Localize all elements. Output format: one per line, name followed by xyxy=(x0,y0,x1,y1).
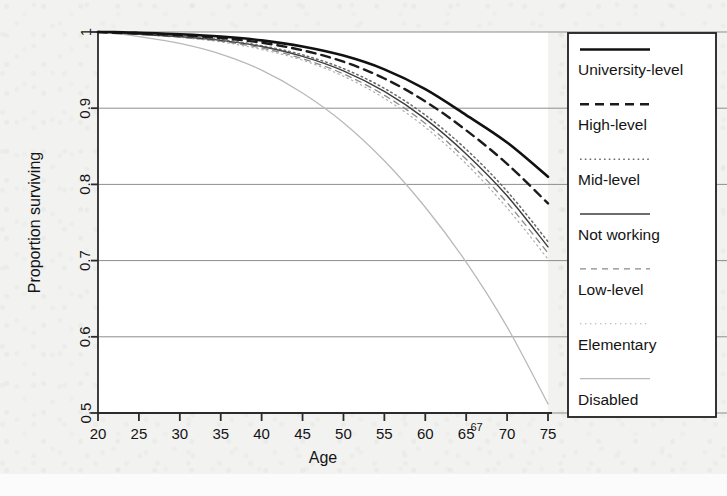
x-axis-tick-label: 55 xyxy=(376,425,393,442)
y-axis-tick-label: 0.8 xyxy=(77,174,94,195)
legend-label-university-level: University-level xyxy=(578,61,683,78)
y-axis-tick-label: 1 xyxy=(77,28,94,36)
x-axis-title: Age xyxy=(309,449,338,466)
y-axis-tick-label: 0.5 xyxy=(77,403,94,424)
x-axis-tick-label: 70 xyxy=(499,425,516,442)
x-axis-tick-label: 50 xyxy=(335,425,352,442)
survival-plot: 0.50.60.70.80.91Proportion surviving2025… xyxy=(0,0,727,496)
x-axis-tick-label: 60 xyxy=(417,425,434,442)
legend-label-disabled: Disabled xyxy=(578,391,638,408)
x-axis-annotation-67: 67 xyxy=(470,421,482,433)
survival-curve-figure: 0.50.60.70.80.91Proportion surviving2025… xyxy=(0,0,727,496)
legend-box xyxy=(568,33,716,417)
legend-label-high-level: High-level xyxy=(578,116,647,133)
legend-label-not-working: Not working xyxy=(578,226,660,243)
y-axis-tick-label: 0.6 xyxy=(77,326,94,347)
y-axis-tick-label: 0.9 xyxy=(77,98,94,119)
x-axis-tick-label: 35 xyxy=(212,425,229,442)
legend-label-mid-level: Mid-level xyxy=(578,171,640,188)
legend-label-low-level: Low-level xyxy=(578,281,643,298)
x-axis-tick-label: 30 xyxy=(171,425,188,442)
x-axis-tick-label: 40 xyxy=(253,425,270,442)
y-axis-tick-label: 0.7 xyxy=(77,250,94,271)
x-axis-tick-label: 20 xyxy=(90,425,107,442)
plot-canvas xyxy=(98,32,548,413)
legend-label-elementary: Elementary xyxy=(578,336,657,353)
x-axis-tick-label: 25 xyxy=(131,425,148,442)
x-axis-tick-label: 75 xyxy=(540,425,557,442)
y-axis-title: Proportion surviving xyxy=(26,152,43,293)
x-axis-tick-label: 45 xyxy=(294,425,311,442)
